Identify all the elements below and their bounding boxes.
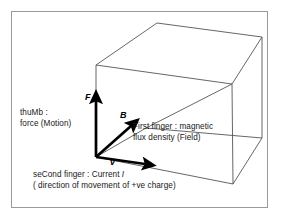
current-vector-label: v (110, 157, 115, 167)
thumb-annotation: thuMb : force (Motion) (20, 108, 71, 129)
second-finger-annotation: seCond finger : Current I ( direction of… (33, 170, 176, 191)
second-finger-annotation-line1: seCond finger : Current I (33, 170, 176, 181)
box-edge-bottom-right (233, 138, 262, 184)
second-finger-annotation-line2: ( direction of movement of +ve charge) (33, 181, 176, 192)
force-vector-label: F (85, 92, 91, 102)
box-edge-top-right-front (232, 37, 262, 84)
thumb-annotation-line1: thuMb : (20, 108, 71, 119)
current-vector-arrow (96, 157, 145, 164)
box-edge-top-front (96, 65, 232, 84)
first-finger-annotation-line1: First finger : magnetic (133, 122, 213, 133)
box-edge-top-left-back (96, 23, 157, 65)
second-finger-text-prefix: seCond finger : Current (33, 170, 122, 179)
thumb-annotation-line2: force (Motion) (20, 119, 71, 130)
field-vector-arrow (96, 126, 131, 157)
box-edge-vert-front-right (232, 84, 233, 184)
field-vector-label: B (120, 110, 127, 120)
current-symbol-I: I (122, 170, 124, 179)
box-edge-top-back (157, 23, 262, 37)
first-finger-annotation-line2: flux density (Field) (133, 133, 213, 144)
figure-root: F B v thuMb : force (Motion) First finge… (0, 0, 283, 219)
first-finger-annotation: First finger : magnetic flux density (Fi… (133, 122, 213, 143)
